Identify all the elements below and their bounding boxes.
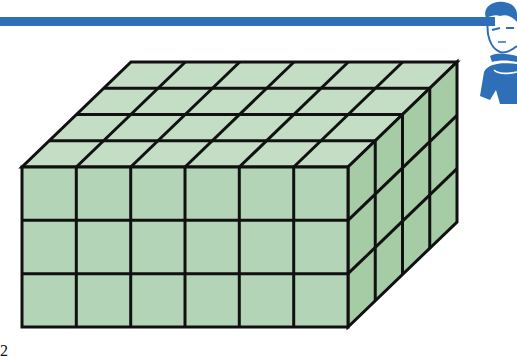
footer-label: 2 [0, 343, 8, 357]
mascot-character-icon [478, 0, 517, 105]
cube-prism-diagram [0, 0, 517, 357]
